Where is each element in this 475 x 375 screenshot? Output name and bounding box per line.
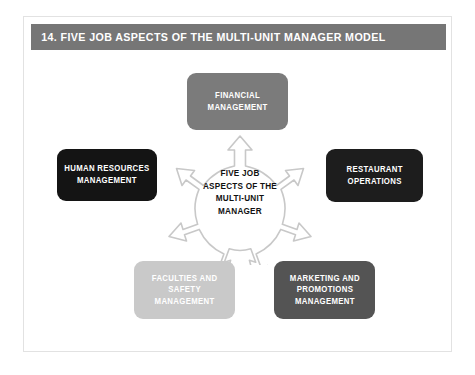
hub-label: FIVE JOB ASPECTS OF THE MULTI-UNIT MANAG… (169, 167, 312, 218)
node-marketing-promotions-management[interactable]: MARKETING AND PROMOTIONS MANAGEMENT (274, 261, 375, 319)
node-facilities-safety-management-label: FACULTIES AND SAFETY MANAGEMENT (152, 273, 218, 308)
node-facilities-safety-management[interactable]: FACULTIES AND SAFETY MANAGEMENT (134, 261, 235, 319)
diagram-stage: FIVE JOB ASPECTS OF THE MULTI-UNIT MANAG… (24, 17, 453, 353)
node-restaurant-operations[interactable]: RESTAURANT OPERATIONS (326, 149, 423, 202)
hub-node: FIVE JOB ASPECTS OF THE MULTI-UNIT MANAG… (165, 130, 315, 265)
node-financial-management[interactable]: FINANCIAL MANAGEMENT (187, 73, 288, 130)
node-restaurant-operations-label: RESTAURANT OPERATIONS (346, 164, 402, 187)
diagram-card: 14. FIVE JOB ASPECTS OF THE MULTI-UNIT M… (23, 16, 452, 352)
node-human-resources-management[interactable]: HUMAN RESOURCES MANAGEMENT (57, 149, 157, 201)
node-marketing-promotions-management-label: MARKETING AND PROMOTIONS MANAGEMENT (289, 273, 359, 308)
node-human-resources-management-label: HUMAN RESOURCES MANAGEMENT (64, 163, 149, 186)
node-financial-management-label: FINANCIAL MANAGEMENT (208, 90, 268, 113)
